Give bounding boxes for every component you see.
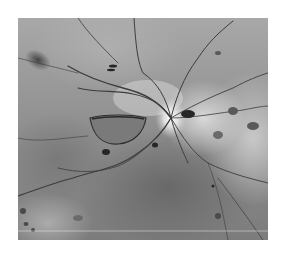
fundus-vessels bbox=[18, 18, 268, 240]
blot-hemorrhages bbox=[20, 51, 259, 232]
preretinal-hemorrhage bbox=[90, 115, 146, 144]
fundus-photo bbox=[18, 18, 268, 240]
